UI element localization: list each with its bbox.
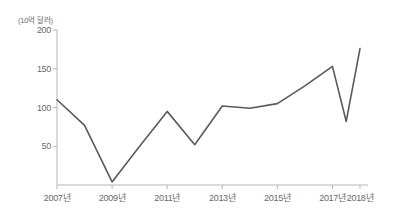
axes	[53, 30, 368, 189]
line-chart: (10억 달러) 50100150200 2007년2009년2011년2013…	[0, 0, 397, 214]
data-series-line	[57, 49, 360, 182]
plot-area	[0, 0, 397, 214]
